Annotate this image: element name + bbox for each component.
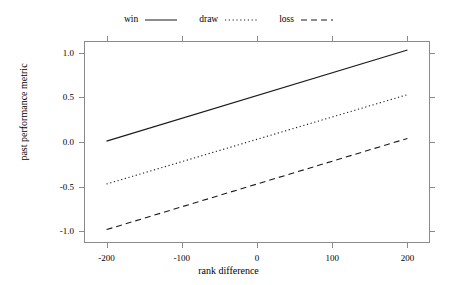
y-tick-right xyxy=(430,142,435,143)
y-tick-right xyxy=(430,97,435,98)
y-tick-right xyxy=(430,187,435,188)
x-tick-bottom xyxy=(182,243,183,248)
x-tick-top xyxy=(407,36,408,41)
series-line-win xyxy=(107,50,408,141)
y-tick-left xyxy=(79,97,84,98)
legend-sample-dotted-line xyxy=(225,15,257,25)
y-tick-left xyxy=(79,187,84,188)
y-axis-title: past performance metric xyxy=(17,11,31,213)
x-tick-bottom xyxy=(407,243,408,248)
y-tick-right xyxy=(430,231,435,232)
legend-label-loss: loss xyxy=(279,15,294,25)
x-tick-label: 200 xyxy=(401,254,415,263)
plot-lines xyxy=(84,41,430,243)
chart-legend: win draw loss xyxy=(0,11,457,29)
x-tick-label: -100 xyxy=(174,254,191,263)
x-tick-label: 0 xyxy=(255,254,260,263)
y-tick-left xyxy=(79,53,84,54)
legend-entry-draw: draw xyxy=(199,15,279,25)
y-tick-left xyxy=(79,142,84,143)
y-tick-label: 0.0 xyxy=(44,138,74,147)
x-tick-top xyxy=(257,36,258,41)
y-tick-label: 1.0 xyxy=(44,48,74,57)
y-tick-right xyxy=(430,53,435,54)
legend-label-win: win xyxy=(124,15,138,25)
series-line-loss xyxy=(107,138,408,229)
x-tick-label: 100 xyxy=(325,254,339,263)
x-tick-label: -200 xyxy=(98,254,115,263)
series-line-draw xyxy=(107,95,408,184)
x-tick-top xyxy=(107,36,108,41)
chart-figure: win draw loss xyxy=(0,0,457,285)
x-tick-top xyxy=(332,36,333,41)
y-tick-label: -0.5 xyxy=(44,182,74,191)
legend-sample-solid-line xyxy=(145,15,177,25)
legend-entry-loss: loss xyxy=(279,15,333,25)
x-tick-bottom xyxy=(107,243,108,248)
x-tick-top xyxy=(182,36,183,41)
legend-entry-win: win xyxy=(124,15,199,25)
x-axis-title: rank difference xyxy=(0,266,457,276)
x-tick-bottom xyxy=(332,243,333,248)
legend-sample-dashed-line xyxy=(301,15,333,25)
x-tick-bottom xyxy=(257,243,258,248)
y-tick-label: 0.5 xyxy=(44,93,74,102)
y-tick-left xyxy=(79,231,84,232)
y-tick-label: -1.0 xyxy=(44,227,74,236)
legend-label-draw: draw xyxy=(199,15,218,25)
